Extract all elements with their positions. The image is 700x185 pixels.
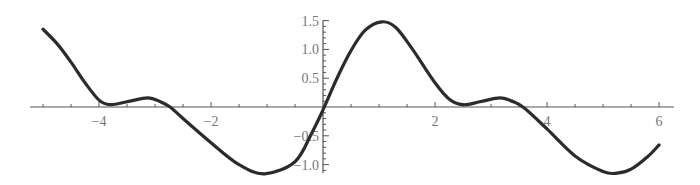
x-tick-label: −2: [204, 114, 219, 129]
line-chart: −4−2246 −1.0−0.50.51.01.5: [0, 0, 700, 185]
y-tick-label: 0.5: [302, 71, 320, 86]
x-tick-label: 6: [656, 114, 663, 129]
data-series-line: [43, 22, 659, 174]
chart-canvas: −4−2246 −1.0−0.50.51.01.5: [0, 0, 700, 185]
x-tick-label: −4: [92, 114, 107, 129]
axes: [30, 21, 674, 174]
y-axis-ticks: −1.0−0.50.51.01.5: [294, 14, 329, 173]
x-tick-label: 2: [432, 114, 439, 129]
x-axis-ticks: −4−2246: [43, 102, 663, 129]
y-tick-label: 1.5: [302, 14, 320, 29]
y-tick-label: 1.0: [302, 42, 320, 57]
